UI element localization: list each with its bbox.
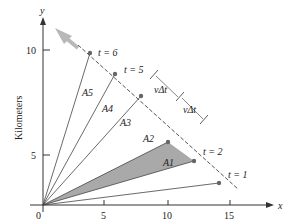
svg-text:A2: A2 — [142, 133, 154, 144]
y-axis-label: y — [39, 5, 45, 16]
y-axis-arrow-icon — [40, 17, 46, 25]
x-axis-arrow-icon — [266, 202, 274, 208]
svg-text:vΔt: vΔt — [154, 84, 167, 95]
svg-text:10: 10 — [162, 210, 172, 221]
svg-text:15: 15 — [224, 210, 234, 221]
svg-text:A4: A4 — [101, 103, 113, 114]
svg-text:A5: A5 — [81, 87, 93, 98]
kepler-area-diagram: y x 0 5 10 15 5 10 Kilometers Kilometers… — [0, 0, 303, 224]
svg-text:vΔt: vΔt — [183, 104, 196, 115]
svg-text:10: 10 — [26, 45, 36, 56]
y-axis-title: Kilometers — [13, 95, 24, 140]
svg-text:5: 5 — [31, 150, 36, 161]
svg-text:t = 5: t = 5 — [124, 64, 144, 75]
svg-text:t = 1: t = 1 — [228, 169, 248, 180]
x-axis-label: x — [277, 200, 283, 211]
svg-text:5: 5 — [101, 210, 106, 221]
svg-text:A3: A3 — [119, 117, 131, 128]
svg-text:t = 6: t = 6 — [98, 47, 118, 58]
svg-text:t = 2: t = 2 — [203, 146, 223, 157]
svg-text:0: 0 — [36, 210, 41, 221]
svg-text:A1: A1 — [162, 157, 174, 168]
